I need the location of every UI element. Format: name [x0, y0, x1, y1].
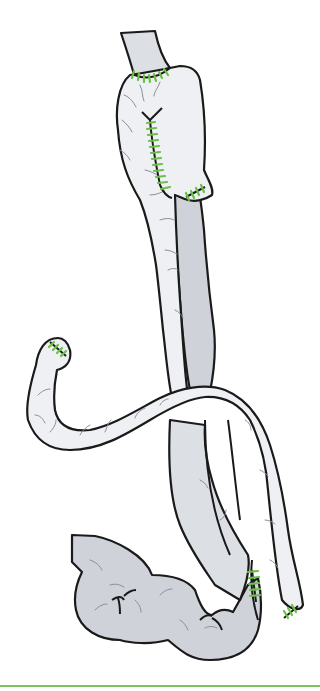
alimentary-limb	[27, 338, 303, 609]
surgical-illustration	[0, 0, 320, 691]
limb-inner-line-2	[228, 420, 240, 520]
crossing-limb-lower	[169, 420, 248, 600]
bottom-rule	[0, 685, 320, 687]
